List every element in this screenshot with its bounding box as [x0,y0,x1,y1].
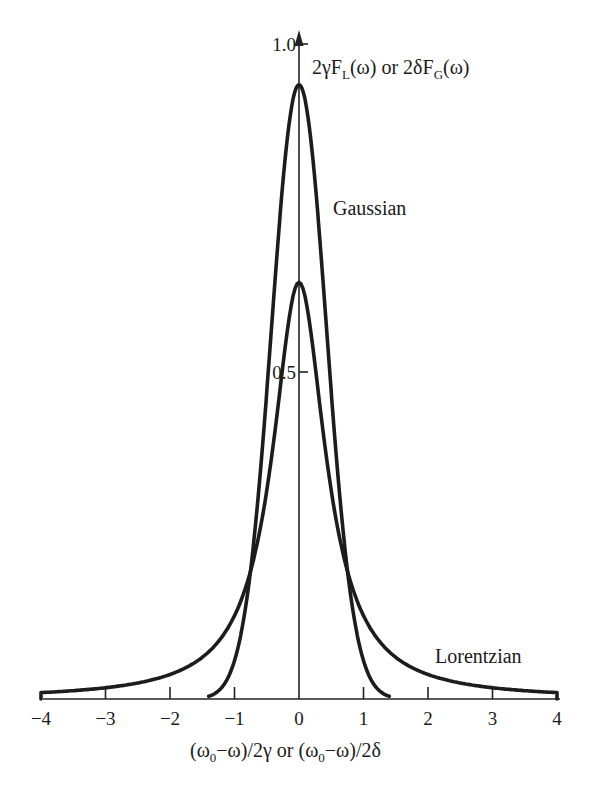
lorentzian-label: Lorentzian [435,645,522,667]
y-tick-label: 1.0 [272,34,296,55]
x-tick-label: 3 [488,708,498,729]
y-axis-label: 2γFL(ω) or 2δFG(ω) [312,56,470,82]
x-tick-label: −2 [160,708,180,729]
x-tick-label: 2 [423,708,433,729]
x-tick-label: 0 [294,708,304,729]
x-tick-label: 1 [359,708,369,729]
x-tick-label: −4 [31,708,52,729]
x-tick-label: −1 [224,708,244,729]
line-chart: −4−3−2−101234 0.51.0 2γFL(ω) or 2δFG(ω) … [0,0,591,790]
x-ticks: −4−3−2−101234 [31,687,562,729]
x-tick-label: 4 [552,708,562,729]
x-axis-label: (ω0−ω)/2γ or (ω0−ω)/2δ [190,739,381,765]
x-tick-label: −3 [95,708,115,729]
gaussian-label: Gaussian [333,197,406,219]
